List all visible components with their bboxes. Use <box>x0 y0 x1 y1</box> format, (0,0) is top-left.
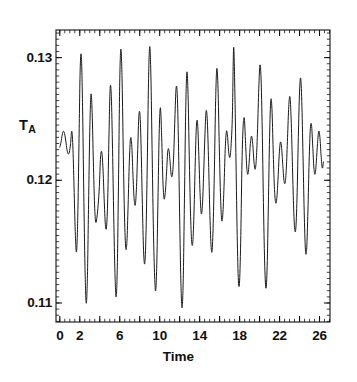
y-tick-label: 0.11 <box>10 295 52 310</box>
y-tick-label: 0.13 <box>10 50 52 65</box>
chart-figure: TA Time 0.130.120.11 0261014182226 <box>0 0 357 382</box>
x-tick-label: 22 <box>260 328 300 343</box>
data-series-line <box>60 47 324 308</box>
x-axis-label: Time <box>0 349 357 364</box>
major-ticks <box>56 30 330 322</box>
y-tick-label: 0.12 <box>10 172 52 187</box>
x-tick-label: 26 <box>300 328 340 343</box>
x-tick-label: 6 <box>100 328 140 343</box>
minor-ticks <box>56 30 330 322</box>
chart-canvas <box>0 0 357 382</box>
x-tick-label: 14 <box>180 328 220 343</box>
axes-frame <box>56 30 330 322</box>
y-axis-label: TA <box>19 117 36 135</box>
x-tick-label: 10 <box>140 328 180 343</box>
y-axis-label-main: T <box>19 117 28 133</box>
y-axis-label-subscript: A <box>28 123 36 135</box>
x-tick-label: 18 <box>220 328 260 343</box>
x-tick-label: 2 <box>60 328 100 343</box>
